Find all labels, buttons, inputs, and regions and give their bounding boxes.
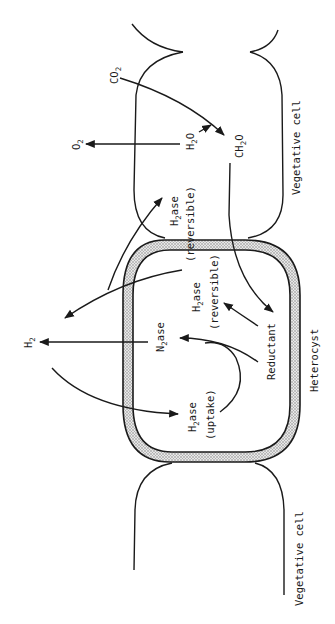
svg-text:CH2O: CH2O [233,135,248,159]
label-h2o: H2O [184,133,199,150]
svg-text:H2: H2 [22,337,37,348]
svg-text:Vegetative cell: Vegetative cell [293,511,305,606]
labels: CO2 O2 H2O CH2O H2ase (reversible) H2ase… [22,67,320,606]
arrow-h2o-to-pathway [199,125,211,132]
svg-text:CO2: CO2 [108,67,123,84]
label-h2ase-reversible-heterocyst: H2ase (reversible) [190,254,220,330]
vegetative-cell-top-outline [134,52,283,238]
arrow-reductant-to-h2ase-reversible [224,303,258,326]
svg-text:Vegetative cell: Vegetative cell [290,100,302,195]
arrow-reductant-to-n2ase [180,338,258,362]
vegetative-cell-bottom [134,463,284,595]
label-vegetative-cell-bottom: Vegetative cell [293,511,305,606]
top-cell-fragment-left [132,24,183,52]
svg-text:(reversible): (reversible) [208,254,220,330]
svg-text:H2O: H2O [184,133,199,150]
heterocyst-diagram: CO2 O2 H2O CH2O H2ase (reversible) H2ase… [0,0,335,624]
label-h2: H2 [22,337,37,348]
svg-text:Reductant: Reductant [265,323,277,380]
label-o2: O2 [70,139,85,150]
label-h2ase-uptake: H2ase (uptake) [186,389,216,440]
vegetative-cell-bottom-outline [134,463,284,595]
label-co2: CO2 [108,67,123,84]
svg-text:N2ase: N2ase [154,322,169,352]
svg-text:Heterocyst: Heterocyst [308,329,320,392]
label-ch2o: CH2O [233,135,248,159]
svg-text:H2ase: H2ase [186,402,201,432]
label-heterocyst: Heterocyst [308,329,320,392]
arrow-h2-to-h2ase-uptake [52,368,178,414]
label-vegetative-cell-top: Vegetative cell [290,100,302,195]
label-reductant: Reductant [265,323,277,380]
svg-text:O2: O2 [70,139,85,150]
svg-text:(reversible): (reversible) [184,186,196,262]
svg-text:H2ase: H2ase [168,196,183,226]
top-cell-fragment-right [250,30,278,52]
label-n2ase: N2ase [154,322,169,352]
svg-text:H2ase: H2ase [190,282,205,312]
svg-text:(uptake): (uptake) [204,389,216,440]
